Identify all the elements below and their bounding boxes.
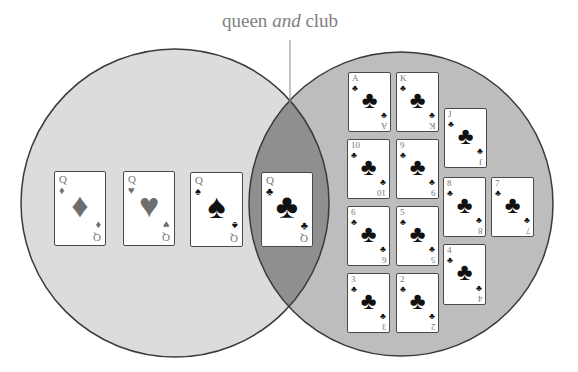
card-rank: K	[429, 121, 436, 130]
card-10-clubs: 10 ♣ ♣ ♣ 10	[347, 139, 390, 199]
club-icon: ♣	[348, 155, 389, 179]
club-icon: ♣	[429, 111, 435, 120]
card-ace-clubs: A ♣ ♣ ♣ A	[348, 72, 391, 132]
card-rank: 9	[400, 141, 405, 150]
club-icon: ♣	[397, 155, 438, 179]
card-4-clubs: 4 ♣ ♣ ♣ 4	[443, 244, 486, 305]
card-rank: 10	[351, 141, 360, 150]
label-queen: queen	[222, 10, 272, 31]
card-rank: 8	[447, 179, 452, 188]
card-rank: Q	[230, 233, 238, 244]
club-icon: ♣	[397, 88, 438, 112]
club-icon: ♣	[397, 222, 438, 246]
spade-icon: ♠	[191, 190, 242, 224]
card-rank: J	[479, 157, 483, 166]
card-rank: J	[448, 110, 452, 119]
club-icon: ♣	[444, 260, 485, 284]
club-icon: ♣	[348, 222, 389, 246]
card-rank: 8	[478, 226, 483, 235]
card-8-clubs: 8 ♣ ♣ ♣ 8	[443, 177, 486, 237]
card-9-clubs: 9 ♣ ♣ ♣ 9	[396, 139, 439, 199]
card-rank: 6	[351, 208, 356, 217]
heart-icon: ♥	[163, 219, 170, 230]
card-rank: Q	[93, 232, 101, 243]
club-icon: ♣	[492, 193, 533, 217]
card-rank: 5	[431, 255, 436, 264]
card-queen-spades: Q ♠ ♠ ♠ Q	[190, 172, 243, 247]
card-rank: K	[400, 74, 407, 83]
card-rank: 2	[400, 275, 405, 284]
card-7-clubs: 7 ♣ ♣ ♣ 7	[491, 177, 534, 237]
club-icon: ♣	[524, 216, 530, 225]
club-icon: ♣	[348, 289, 389, 313]
club-icon: ♣	[429, 312, 435, 321]
club-icon: ♣	[380, 312, 386, 321]
card-queen-hearts: Q ♥ ♥ ♥ Q	[123, 171, 175, 246]
card-rank: A	[352, 74, 359, 83]
card-rank: 3	[351, 275, 356, 284]
club-icon: ♣	[445, 124, 486, 148]
club-icon: ♣	[349, 88, 390, 112]
spade-icon: ♠	[232, 220, 238, 231]
card-rank: A	[381, 121, 388, 130]
card-queen-clubs: Q ♣ ♣ ♣ Q	[261, 172, 313, 247]
club-icon: ♣	[429, 178, 435, 187]
club-icon: ♣	[444, 193, 485, 217]
club-icon: ♣	[477, 147, 483, 156]
card-rank: 9	[431, 188, 436, 197]
card-rank: 6	[382, 255, 387, 264]
intersection-label: queen and club	[222, 10, 338, 32]
club-icon: ♣	[476, 284, 482, 293]
club-icon: ♣	[397, 289, 438, 313]
card-6-clubs: 6 ♣ ♣ ♣ 6	[347, 206, 390, 266]
card-queen-diamonds: Q ♦ ♦ ♦ Q	[54, 171, 106, 246]
card-3-clubs: 3 ♣ ♣ ♣ 3	[347, 273, 390, 333]
club-icon: ♣	[429, 245, 435, 254]
card-rank: 7	[526, 226, 531, 235]
card-rank: 5	[400, 208, 405, 217]
card-rank: 2	[431, 322, 436, 331]
diamond-icon: ♦	[95, 219, 101, 230]
card-2-clubs: 2 ♣ ♣ ♣ 2	[396, 273, 439, 333]
label-club: club	[301, 10, 338, 31]
label-and: and	[272, 10, 301, 31]
club-icon: ♣	[381, 111, 387, 120]
club-icon: ♣	[380, 245, 386, 254]
club-icon: ♣	[380, 178, 386, 187]
card-rank: 10	[377, 188, 386, 197]
card-5-clubs: 5 ♣ ♣ ♣ 5	[396, 206, 439, 266]
club-icon: ♣	[301, 220, 308, 231]
card-jack-clubs: J ♣ ♣ ♣ J	[444, 108, 487, 168]
card-rank: 7	[495, 179, 500, 188]
card-rank: 3	[382, 322, 387, 331]
card-rank: 4	[478, 294, 483, 303]
heart-icon: ♥	[124, 189, 174, 223]
card-rank: Q	[300, 233, 308, 244]
club-icon: ♣	[476, 216, 482, 225]
card-king-clubs: K ♣ ♣ ♣ K	[396, 72, 439, 132]
card-rank: Q	[162, 232, 170, 243]
card-rank: 4	[447, 246, 452, 255]
